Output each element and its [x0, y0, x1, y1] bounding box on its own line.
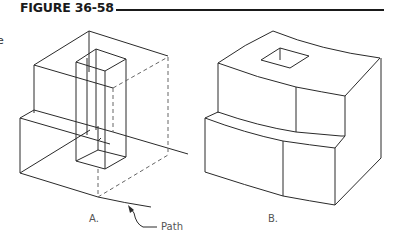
path-label: Path: [161, 221, 183, 232]
figure-drawing: A. Path B.: [0, 0, 394, 243]
panel-a-drawing: [20, 31, 188, 207]
panel-b-drawing: [205, 31, 381, 205]
path-leader-arrow: [128, 205, 157, 227]
panel-a-hidden-lines: [98, 57, 168, 197]
panel-a-label: A.: [89, 213, 99, 224]
panel-b-label: B.: [268, 213, 278, 224]
